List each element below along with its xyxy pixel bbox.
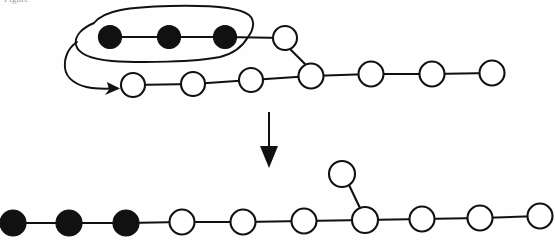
- lower-graph-panel: [0, 161, 553, 236]
- node-marked[interactable]: [158, 26, 181, 49]
- node-open[interactable]: [239, 68, 263, 92]
- node-open[interactable]: [299, 64, 324, 89]
- node-open[interactable]: [410, 207, 435, 232]
- node-open[interactable]: [181, 72, 205, 96]
- node-open[interactable]: [231, 210, 256, 235]
- upper-graph-panel: [65, 6, 505, 97]
- node-open[interactable]: [468, 206, 493, 231]
- transform-arrow-head: [260, 146, 278, 168]
- node-marked[interactable]: [0, 210, 26, 236]
- transform-arrow: [260, 112, 278, 168]
- node-open[interactable]: [170, 210, 195, 235]
- node-open[interactable]: [121, 73, 145, 97]
- node-marked[interactable]: [113, 210, 139, 236]
- node-open[interactable]: [359, 62, 384, 87]
- node-marked[interactable]: [99, 26, 122, 49]
- lower-graph-edges: [13, 185, 540, 223]
- graph-diagram: [0, 0, 555, 245]
- node-open[interactable]: [292, 209, 317, 234]
- node-open[interactable]: [273, 26, 297, 50]
- lower-graph-nodes: [0, 161, 553, 236]
- node-marked[interactable]: [214, 26, 237, 49]
- node-branch[interactable]: [329, 161, 355, 187]
- node-open[interactable]: [420, 62, 445, 87]
- node-open[interactable]: [352, 207, 378, 233]
- edge-u4-l4: [290, 49, 306, 65]
- node-open[interactable]: [528, 204, 553, 229]
- edge-bt-b7: [349, 185, 360, 208]
- node-open[interactable]: [480, 61, 505, 86]
- figure-canvas: Figure: [0, 0, 555, 245]
- node-marked[interactable]: [56, 210, 82, 236]
